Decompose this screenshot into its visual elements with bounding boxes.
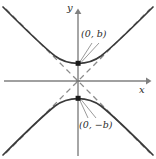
x-axis-label: x (139, 85, 145, 95)
y-axis-arrowhead (75, 9, 82, 15)
upper-vertex-point (76, 61, 81, 66)
y-axis-label: y (67, 3, 73, 13)
x-axis-arrowhead (146, 78, 152, 85)
hyperbola-figure: y x (0, b) (0, −b) (0, 0, 156, 159)
lower-vertex-label: (0, −b) (79, 120, 113, 130)
hyperbola-plot-canvas (0, 0, 156, 159)
lower-vertex-point (76, 96, 81, 101)
upper-vertex-label: (0, b) (81, 29, 107, 39)
